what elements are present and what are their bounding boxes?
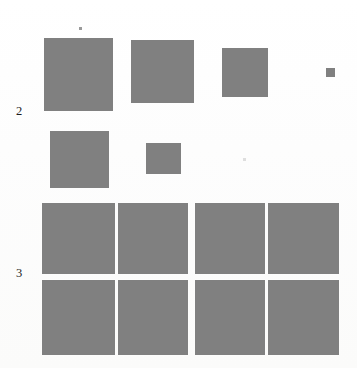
- image-placeholder-block: [44, 38, 113, 111]
- image-placeholder-block: [326, 68, 335, 77]
- row-label-2: 2: [16, 105, 22, 118]
- figure-page: 23: [0, 0, 357, 368]
- scan-speck: [243, 158, 246, 161]
- image-placeholder-block: [118, 280, 188, 355]
- image-placeholder-block: [268, 280, 339, 355]
- image-placeholder-block: [50, 131, 109, 188]
- image-placeholder-block: [195, 280, 265, 355]
- image-placeholder-block: [42, 203, 115, 274]
- image-placeholder-block: [146, 143, 181, 174]
- image-placeholder-block: [195, 203, 265, 274]
- image-placeholder-block: [268, 203, 339, 274]
- image-placeholder-block: [42, 280, 115, 355]
- image-placeholder-block: [118, 203, 188, 274]
- image-placeholder-block: [222, 48, 268, 97]
- scan-speck: [79, 27, 82, 30]
- row-label-3: 3: [16, 267, 22, 280]
- image-placeholder-block: [131, 40, 194, 103]
